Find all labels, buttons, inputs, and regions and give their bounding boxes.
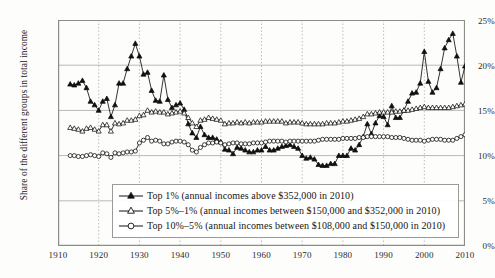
x-tick-1990: 1990 — [362, 250, 406, 260]
data-series-layer — [68, 31, 465, 168]
open-circle-icon — [118, 220, 144, 232]
x-tick-1950: 1950 — [199, 250, 243, 260]
y-tick-0: 0% — [465, 241, 495, 251]
x-tick-1970: 1970 — [280, 250, 324, 260]
x-tick-2000: 2000 — [402, 250, 446, 260]
filled-triangle-icon — [118, 190, 144, 202]
y-axis-label: Share of the different groups in total i… — [19, 5, 29, 225]
x-tick-1960: 1960 — [240, 250, 284, 260]
x-tick-1940: 1940 — [158, 250, 202, 260]
legend-item-top-10-5: Top 10%–5% (annual incomes between $108,… — [118, 218, 453, 233]
x-tick-2010: 2010 — [443, 250, 487, 260]
x-tick-1910: 1910 — [36, 250, 80, 260]
x-tick-1980: 1980 — [321, 250, 365, 260]
chart-legend: Top 1% (annual incomes above $352,000 in… — [112, 184, 459, 238]
x-tick-1930: 1930 — [117, 250, 161, 260]
income-share-chart: Share of the different groups in total i… — [0, 0, 495, 278]
y-tick-25: 25% — [465, 16, 495, 26]
legend-label-top-10-5: Top 10%–5% (annual incomes between $108,… — [147, 220, 445, 231]
legend-label-top-1: Top 1% (annual incomes above $352,000 in… — [147, 190, 354, 201]
legend-label-top-5-1: Top 5%–1% (annual incomes between $150,0… — [147, 205, 440, 216]
x-tick-1920: 1920 — [77, 250, 121, 260]
open-triangle-icon — [118, 205, 144, 217]
y-tick-20: 20% — [465, 61, 495, 71]
y-tick-15: 15% — [465, 106, 495, 116]
legend-item-top-1: Top 1% (annual incomes above $352,000 in… — [118, 188, 453, 203]
series-0 — [68, 31, 465, 168]
y-tick-5: 5% — [465, 196, 495, 206]
legend-item-top-5-1: Top 5%–1% (annual incomes between $150,0… — [118, 203, 453, 218]
y-tick-10: 10% — [465, 151, 495, 161]
